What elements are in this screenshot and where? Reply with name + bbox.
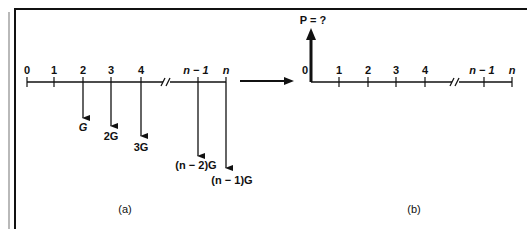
period-label-2: 2	[80, 64, 86, 76]
cash-flow-label: (n − 1)G	[211, 174, 252, 186]
axis-break-icon-b	[450, 78, 459, 86]
cash-flow-label: (n − 2)G	[175, 159, 216, 171]
period-label-n-minus-1: n − 1	[469, 64, 494, 76]
cash-flow-label: G	[79, 121, 88, 133]
period-label-0: 0	[24, 64, 30, 76]
panel-b: P = ? 0 1 2 3 4 n − 1 n (b)	[300, 14, 516, 215]
period-label-1: 1	[51, 64, 57, 76]
cash-flow-label: 3G	[134, 141, 149, 153]
cash-flow-label: 2G	[104, 130, 119, 142]
gradient-cash-flow-figure: 0 1 2 3 4 n − 1 n G 2G 3G (n − 2)G (n − …	[0, 0, 527, 229]
panel-b-caption: (b)	[407, 203, 420, 215]
equivalence-arrow-icon	[240, 77, 294, 85]
panel-a: 0 1 2 3 4 n − 1 n G 2G 3G (n − 2)G (n − …	[24, 64, 253, 215]
period-label-n: n	[509, 64, 516, 76]
cash-flow-arrows-a	[83, 82, 226, 168]
axis-break-icon-a	[161, 78, 170, 86]
period-label-3: 3	[393, 64, 399, 76]
present-value-label: P = ?	[300, 14, 327, 26]
period-label-3: 3	[108, 64, 114, 76]
period-label-4: 4	[138, 64, 145, 76]
period-label-0: 0	[302, 64, 308, 76]
period-label-1: 1	[336, 64, 342, 76]
panel-a-caption: (a)	[118, 203, 131, 215]
period-label-n-minus-1: n − 1	[183, 64, 208, 76]
period-label-n: n	[223, 64, 230, 76]
period-label-4: 4	[422, 64, 429, 76]
figure-frame	[9, 9, 527, 229]
period-label-2: 2	[365, 64, 371, 76]
